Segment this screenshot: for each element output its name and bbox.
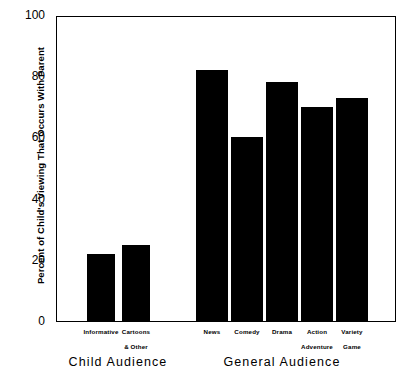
- y-tick-label: 60: [32, 130, 45, 144]
- y-tick-label: 100: [25, 8, 45, 22]
- category-label-line1: Variety: [341, 328, 362, 335]
- bar: [266, 82, 298, 321]
- y-tick-label: 40: [32, 192, 45, 206]
- bar: [196, 70, 228, 321]
- y-axis-title: Percent of Child's Viewing That Occurs W…: [35, 16, 46, 316]
- category-label-line1: Cartoons: [122, 328, 150, 335]
- category-label-line2: Game: [312, 344, 392, 351]
- category-label: Cartoons& Other: [96, 329, 176, 350]
- category-label: VarietyGame: [312, 329, 392, 350]
- bar-chart: Percent of Child's Viewing That Occurs W…: [0, 0, 412, 381]
- bar: [87, 254, 115, 321]
- group-title: General Audience: [182, 355, 382, 369]
- y-tick-label: 20: [32, 253, 45, 267]
- bar: [122, 245, 150, 322]
- bar: [301, 107, 333, 321]
- bar: [336, 98, 368, 321]
- bar: [231, 137, 263, 321]
- category-label-line2: & Other: [96, 344, 176, 351]
- plot-area: [56, 16, 396, 322]
- y-tick-label: 0: [38, 314, 45, 328]
- y-tick-label: 80: [32, 69, 45, 83]
